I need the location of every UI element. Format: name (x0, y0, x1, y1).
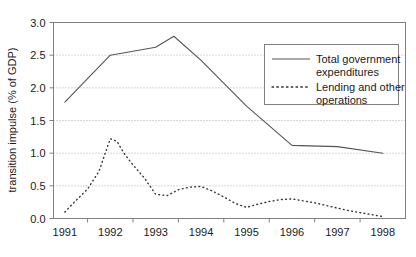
y-tick-label-2.5: 2.5 (30, 49, 45, 61)
x-tick-label-1991: 1991 (53, 226, 77, 238)
x-tick-label-1998: 1998 (371, 226, 395, 238)
chart-container: 0.00.51.01.52.02.53.0 199119921993199419… (0, 0, 416, 257)
x-tick-label-1993: 1993 (143, 226, 167, 238)
y-tick-label-0.0: 0.0 (30, 213, 45, 225)
legend-label-total-government-expenditures-line2: expenditures (316, 66, 379, 78)
y-tick-label-2.0: 2.0 (30, 82, 45, 94)
x-tick-label-1996: 1996 (280, 226, 304, 238)
y-tick-label-0.5: 0.5 (30, 180, 45, 192)
y-tick-label-1.0: 1.0 (30, 147, 45, 159)
legend-label-lending-and-other-operations-line2: operations (316, 94, 368, 106)
line-chart: 0.00.51.01.52.02.53.0 199119921993199419… (0, 0, 416, 257)
x-tick-label-1995: 1995 (234, 226, 258, 238)
legend-label-lending-and-other-operations-line1: Lending and other (316, 81, 405, 93)
y-tick-label-1.5: 1.5 (30, 115, 45, 127)
y-axis-title: transition impulse (% of GDP) (6, 48, 18, 193)
x-tick-label-1992: 1992 (98, 226, 122, 238)
x-tick-label-1997: 1997 (325, 226, 349, 238)
y-tick-label-3.0: 3.0 (30, 17, 45, 29)
legend-label-total-government-expenditures-line1: Total government (316, 53, 400, 65)
chart-legend: Total government expenditures Lending an… (265, 45, 406, 106)
x-tick-label-1994: 1994 (189, 226, 213, 238)
